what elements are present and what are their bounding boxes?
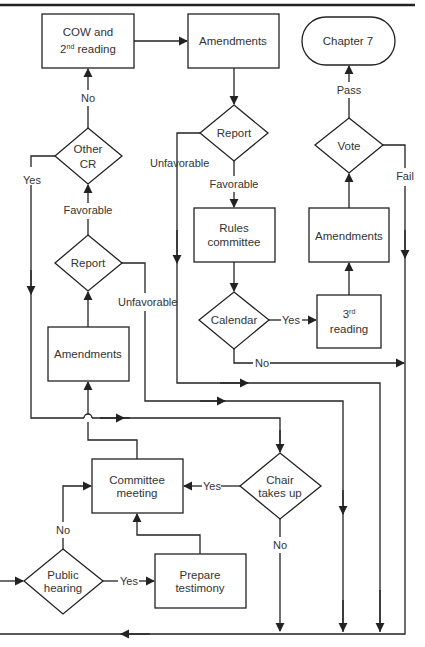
label-othercr-no: No: [81, 92, 95, 104]
amendments-top-label: Amendments: [199, 35, 267, 47]
report-lower-label: Report: [71, 257, 106, 269]
rules-label-line2: committee: [207, 236, 260, 248]
other-cr-diamond: [55, 128, 122, 184]
cow-box: [42, 14, 134, 68]
public-hearing-line2: hearing: [44, 582, 82, 594]
other-cr-label-line1: Other: [74, 143, 103, 155]
committee-meeting-line2: meeting: [117, 487, 158, 499]
label-report-lower-unfavorable: Unfavorable: [118, 296, 177, 308]
rules-committee-box: [194, 208, 275, 262]
label-vote-pass: Pass: [337, 84, 362, 96]
report-upper-label: Report: [217, 127, 252, 139]
amendments-left-label: Amendments: [54, 348, 122, 360]
rules-label-line1: Rules: [219, 222, 249, 234]
label-vote-fail: Fail: [396, 170, 414, 182]
label-hearing-yes: Yes: [120, 575, 138, 587]
edge-testimony-to-committee: [137, 514, 200, 554]
prepare-testimony-box: [155, 554, 246, 608]
committee-meeting-line1: Committee: [109, 474, 165, 486]
prepare-testimony-line2: testimony: [175, 582, 224, 594]
label-calendar-no: No: [255, 357, 269, 369]
edge-committee-to-amendments-a: [88, 422, 137, 459]
third-reading-box: [317, 295, 381, 348]
chapter7-label: Chapter 7: [323, 35, 374, 47]
line-hop: [84, 414, 92, 418]
committee-meeting-box: [92, 459, 183, 513]
label-chair-yes: Yes: [203, 480, 221, 492]
chair-line1: Chair: [266, 474, 294, 486]
label-othercr-yes: Yes: [23, 174, 41, 186]
prepare-testimony-line1: Prepare: [180, 569, 221, 581]
label-report-upper-unfavorable: Unfavorable: [150, 157, 209, 169]
third-reading-line2: reading: [330, 323, 368, 335]
label-report-lower-favorable: Favorable: [64, 204, 113, 216]
calendar-label: Calendar: [211, 314, 258, 326]
amendments-right-label: Amendments: [315, 230, 383, 242]
public-hearing-line1: Public: [47, 569, 79, 581]
legislative-process-flowchart: COW and 2nd reading Amendments Chapter 7…: [0, 0, 425, 647]
chair-takes-up-diamond: [240, 453, 321, 519]
label-calendar-yes: Yes: [282, 314, 300, 326]
edge-calendar-no-a: [234, 349, 253, 363]
edge-othercr-yes-c: [92, 418, 280, 452]
edge-report-lower-unfav-a: [122, 263, 145, 293]
edge-vote-fail-a: [383, 145, 405, 168]
vote-label: Vote: [337, 140, 360, 152]
label-report-upper-favorable: Favorable: [210, 178, 259, 190]
cow-label-line1: COW and: [63, 26, 114, 38]
edge-othercr-yes-a: [31, 156, 55, 167]
label-hearing-no: No: [56, 524, 70, 536]
label-chair-no: No: [273, 539, 287, 551]
edge-hearing-no-b: [63, 486, 91, 522]
edge-othercr-yes-b: [31, 185, 84, 418]
other-cr-label-line2: CR: [80, 158, 97, 170]
chair-line2: takes up: [258, 487, 301, 499]
